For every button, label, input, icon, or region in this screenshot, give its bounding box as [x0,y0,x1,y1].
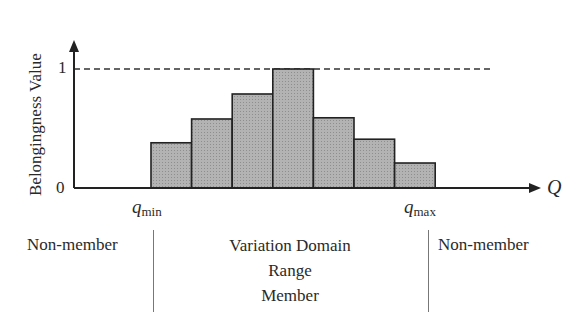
q-min-label: qmin [132,196,162,220]
region-right-label: Non-member [438,235,529,255]
region-center-line1: Variation Domain [190,233,390,258]
region-center-line3: Member [190,283,390,308]
region-center-label: Variation Domain Range Member [190,233,390,308]
region-left-label: Non-member [27,235,118,255]
histogram-bar [354,139,395,188]
region-center-line2: Range [190,258,390,283]
bars [151,69,435,188]
divider-right [428,230,429,312]
histogram-bar [151,143,192,188]
histogram-bar [395,163,436,188]
x-axis-arrow-icon [529,183,541,193]
q-max-sub: max [414,204,436,219]
histogram-bar [273,69,314,188]
q-max-label: qmax [404,196,436,220]
y-axis-arrow-icon [69,40,79,52]
histogram-bar [313,118,354,188]
histogram-bar [232,94,273,188]
x-axis-title: Q [547,176,561,199]
y-axis-title: Belongingness Value [26,53,46,196]
q-min-sub: min [142,204,162,219]
histogram-bar [192,119,233,188]
divider-left [153,230,154,312]
q-min-base: q [132,196,142,217]
y-tick-0: 0 [56,178,65,198]
y-tick-1: 1 [58,58,67,78]
q-max-base: q [404,196,414,217]
